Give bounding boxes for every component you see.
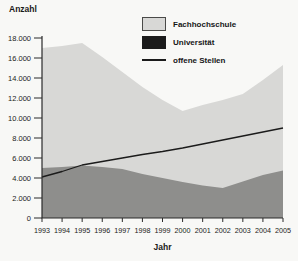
- y-tick-label: 8.000: [12, 134, 31, 143]
- x-tick-label: 1994: [54, 226, 70, 235]
- x-tick-label: 1993: [34, 226, 50, 235]
- chart-legend: Fachhochschule Universität offene Stelle…: [142, 17, 236, 71]
- x-tick-label: 1999: [155, 226, 171, 235]
- x-axis-title: Jahr: [42, 242, 283, 252]
- chart-panel: Anzahl 02.0004.0006.0008.00010.00012.000…: [0, 0, 298, 261]
- legend-item-universitaet: Universität: [142, 35, 236, 49]
- legend-label-fachhochschule: Fachhochschule: [173, 20, 236, 29]
- fachhochschule-area-swatch-icon: [142, 17, 166, 31]
- y-tick-label: 10.000: [8, 114, 31, 123]
- y-tick-label: 14.000: [8, 74, 31, 83]
- x-tick-label: 2000: [175, 226, 191, 235]
- x-tick-label: 2003: [235, 226, 251, 235]
- x-tick-label: 1995: [74, 226, 90, 235]
- y-tick-label: 12.000: [8, 94, 31, 103]
- legend-item-offene-stellen: offene Stellen: [142, 53, 236, 67]
- y-tick-label: 4.000: [12, 174, 31, 183]
- y-tick-label: 16.000: [8, 54, 31, 63]
- x-tick-label: 1996: [94, 226, 110, 235]
- y-tick-label: 18.000: [8, 34, 31, 43]
- legend-label-offene-stellen: offene Stellen: [173, 56, 225, 65]
- x-tick-label: 1998: [134, 226, 150, 235]
- universitaet-area-swatch-icon: [142, 36, 166, 49]
- x-tick-label: 1997: [114, 226, 130, 235]
- x-tick-label: 2005: [275, 226, 291, 235]
- y-tick-label: 0: [27, 214, 31, 223]
- x-tick-label: 2001: [195, 226, 211, 235]
- x-tick-label: 2002: [215, 226, 231, 235]
- legend-label-universitaet: Universität: [173, 38, 214, 47]
- y-tick-label: 2.000: [12, 194, 31, 203]
- offene-stellen-line-swatch-icon: [142, 59, 166, 61]
- legend-item-fachhochschule: Fachhochschule: [142, 17, 236, 31]
- x-tick-label: 2004: [255, 226, 271, 235]
- y-tick-label: 6.000: [12, 154, 31, 163]
